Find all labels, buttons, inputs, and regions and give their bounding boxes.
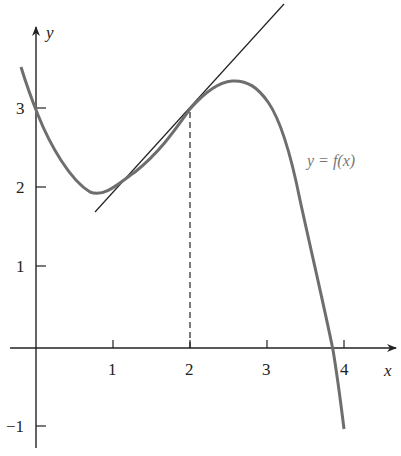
y-tick-label-neg1: −1: [6, 417, 24, 436]
x-tick-label-2: 2: [185, 360, 194, 379]
x-ticks: [113, 340, 344, 348]
function-label: y = f(x): [305, 152, 355, 170]
x-tick-label-4: 4: [340, 360, 349, 379]
x-tick-label-1: 1: [108, 360, 117, 379]
y-tick-label-3: 3: [16, 99, 25, 118]
x-tick-label-3: 3: [262, 360, 271, 379]
y-axis-label: y: [44, 23, 54, 42]
chart: 1 2 3 4 3 2 1 −1 y x y = f(x): [0, 0, 401, 456]
x-axis-label: x: [383, 361, 392, 380]
y-tick-label-2: 2: [16, 178, 25, 197]
y-tick-label-1: 1: [16, 257, 25, 276]
y-ticks: [36, 108, 46, 426]
function-curve: [21, 67, 344, 429]
